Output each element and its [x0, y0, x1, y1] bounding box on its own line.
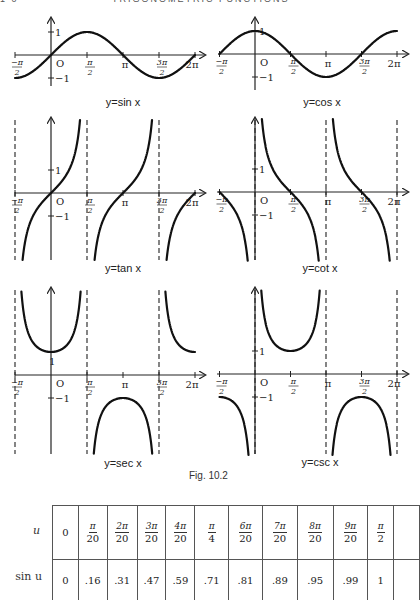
- svg-text:2: 2: [13, 388, 19, 397]
- x-tick-label: −π: [11, 196, 24, 205]
- graph-tan: 1−1−π2Oπ2π3π22πy=tan x: [11, 118, 205, 274]
- x-tick-label: −π: [11, 378, 24, 387]
- svg-text:2: 2: [361, 205, 367, 214]
- fraction: 4π20: [174, 520, 188, 545]
- x-tick-label: π: [290, 377, 297, 386]
- csc-curve: [333, 397, 391, 455]
- sec-curve: [94, 398, 152, 454]
- fraction: π20: [86, 520, 99, 545]
- svg-text:2: 2: [218, 205, 224, 214]
- sin-cell: 1: [368, 560, 394, 600]
- graph-caption: y=cot x: [302, 262, 338, 274]
- x-tick-label: π: [122, 379, 129, 390]
- fraction: 8π20: [308, 520, 322, 545]
- table-row-sin: 0.16.31.47.59.71.81.89.95.991: [53, 560, 420, 600]
- svg-text:2: 2: [86, 388, 92, 397]
- origin-label: O: [56, 58, 64, 69]
- fraction: 6π20: [239, 520, 253, 545]
- origin-label: O: [260, 195, 268, 206]
- fraction: 7π20: [273, 520, 287, 545]
- table-row-label-u: u: [0, 524, 40, 537]
- x-tick-label: 2π: [186, 379, 199, 390]
- sin-cell: .89: [262, 560, 297, 600]
- graph-caption: y=csc x: [302, 456, 339, 468]
- x-tick-label: −π: [11, 58, 24, 67]
- y-tick-label: 1: [49, 356, 55, 367]
- fraction: 3π20: [145, 520, 159, 545]
- graph-csc: 1−1−π2Oπ2π3π22πy=csc x: [216, 288, 408, 468]
- fraction: π2: [377, 520, 385, 545]
- graph-caption: y=sec x: [104, 457, 142, 469]
- origin-label: O: [260, 57, 268, 68]
- u-cell: 3π20: [137, 506, 166, 560]
- sec-curve: [165, 292, 195, 352]
- y-tick-label: −1: [259, 72, 274, 83]
- table-row-u: 0π202π203π204π20π46π207π208π209π20π2: [53, 506, 420, 560]
- svg-text:2: 2: [218, 387, 224, 396]
- svg-text:2: 2: [290, 67, 296, 76]
- sin-cell: .16: [78, 560, 107, 600]
- y-tick-label: −1: [55, 211, 70, 222]
- sin-cell: .59: [166, 560, 195, 600]
- u-cell: 8π20: [297, 506, 333, 560]
- u-cell: π4: [195, 506, 229, 560]
- x-tick-label: 2π: [186, 197, 199, 208]
- svg-text:2: 2: [13, 68, 19, 77]
- svg-text:2: 2: [86, 68, 92, 77]
- sin-cell: [394, 560, 420, 600]
- sin-cell: .95: [297, 560, 333, 600]
- y-tick-label: 1: [55, 165, 61, 176]
- sin-cell: .31: [107, 560, 137, 600]
- fraction: 9π20: [344, 520, 358, 545]
- graph-cos: 1−1−π2Oπ2π3π22πy=cos x: [216, 18, 408, 108]
- svg-text:2: 2: [361, 387, 367, 396]
- graph-sec: 1−1−π2Oπ2π3π22πy=sec x: [11, 288, 205, 469]
- sin-cell: 0: [53, 560, 79, 600]
- x-tick-label: 3π: [359, 57, 370, 66]
- svg-text:2: 2: [13, 206, 19, 215]
- x-tick-label: 2π: [388, 378, 401, 389]
- svg-text:2: 2: [158, 68, 164, 77]
- graph-caption: y=sin x: [106, 96, 141, 108]
- trig-graphs-figure: 1−1−π2Oπ2π3π22πy=sin x 1−1−π2Oπ2π3π22πy=…: [0, 0, 420, 490]
- svg-text:2: 2: [290, 387, 296, 396]
- svg-text:2: 2: [86, 206, 92, 215]
- x-tick-label: π: [325, 378, 332, 389]
- sin-cell: .99: [333, 560, 368, 600]
- y-tick-label: −1: [259, 210, 274, 221]
- row-label-u-text: u: [33, 524, 40, 537]
- sin-cell: .47: [137, 560, 166, 600]
- origin-label: O: [260, 377, 268, 388]
- x-tick-label: −π: [216, 57, 229, 66]
- origin-label: O: [56, 196, 64, 207]
- x-tick-label: 2π: [388, 196, 401, 207]
- u-cell: 7π20: [262, 506, 297, 560]
- y-tick-label: −1: [55, 393, 70, 404]
- graph-caption: y=tan x: [105, 262, 141, 274]
- x-tick-label: π: [122, 197, 129, 208]
- tan-curve: [95, 120, 152, 260]
- svg-text:2: 2: [218, 67, 224, 76]
- x-tick-label: π: [86, 378, 93, 387]
- x-tick-label: π: [86, 196, 93, 205]
- svg-text:2: 2: [158, 388, 164, 397]
- u-cell: π20: [78, 506, 107, 560]
- u-cell: 0: [53, 506, 79, 560]
- table-row-label-sin-u: sin u: [0, 570, 42, 583]
- sin-cell: .81: [229, 560, 263, 600]
- y-tick-label: 1: [55, 27, 61, 38]
- x-tick-label: 2π: [186, 59, 199, 70]
- graph-cot: 1−1−π2Oπ2π3π22πy=cot x: [216, 118, 408, 274]
- x-tick-label: 3π: [157, 58, 168, 67]
- x-tick-label: 2π: [388, 58, 401, 69]
- sin-cell: .71: [195, 560, 229, 600]
- y-tick-label: −1: [259, 392, 274, 403]
- csc-curve: [220, 397, 249, 455]
- fraction: 2π20: [115, 520, 129, 545]
- u-cell: 9π20: [333, 506, 368, 560]
- y-tick-label: 1: [259, 164, 265, 175]
- graph-sin: 1−1−π2Oπ2π3π22πy=sin x: [11, 18, 205, 108]
- fraction: π4: [208, 520, 216, 545]
- csc-curve: [261, 291, 319, 351]
